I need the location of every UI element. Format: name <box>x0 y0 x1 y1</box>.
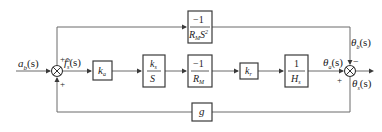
block-inv-hs: 1 Hs <box>285 55 308 87</box>
error-signal-label: fbs(s) <box>64 56 81 70</box>
svg-text:−1: −1 <box>193 58 204 69</box>
block-neg-inv-rm: −1 RM <box>188 55 212 87</box>
block-kr: kr <box>240 63 258 79</box>
sum-left-junction <box>52 66 63 77</box>
theta-b-signal-label: θb(s) <box>351 36 371 50</box>
svg-text:θa(s): θa(s) <box>323 56 343 70</box>
block-diagram: + + − + ab(s) fbs(s) θa(s) θb(s) θs(s) k… <box>0 0 382 132</box>
svg-text:fbs(s): fbs(s) <box>64 56 81 70</box>
svg-text:θs(s): θs(s) <box>352 77 372 91</box>
sum-left-bottom-sign: + <box>60 79 65 89</box>
sum-right-junction <box>345 66 356 77</box>
block-ka: ka <box>93 61 112 80</box>
svg-text:ab(s): ab(s) <box>18 57 39 72</box>
theta-a-signal-label: θa(s) <box>323 56 343 70</box>
svg-text:S: S <box>150 73 155 84</box>
svg-text:g: g <box>199 105 205 117</box>
output-signal-label: θs(s) <box>352 77 372 91</box>
block-feedback-g: g <box>192 103 212 121</box>
svg-text:−1: −1 <box>193 14 204 25</box>
input-signal-label: ab(s) <box>18 57 39 72</box>
svg-text:θb(s): θb(s) <box>351 36 371 50</box>
sum-right-left-sign: + <box>337 75 342 85</box>
block-ks-over-s: ks S <box>143 55 165 87</box>
svg-text:1: 1 <box>294 58 299 69</box>
block-feedforward: −1 RMS2 <box>188 11 212 43</box>
sum-right-top-sign: − <box>353 56 359 67</box>
